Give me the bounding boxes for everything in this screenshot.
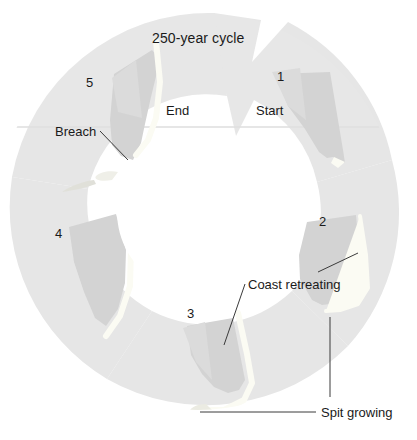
stage-number-2: 2 — [319, 214, 326, 229]
annotation-spit-growing: Spit growing — [321, 405, 393, 420]
stage-number-1: 1 — [277, 69, 284, 84]
cycle-diagram-figure: 250-year cycle 1 Start 2 3 4 5 End Breac… — [0, 0, 417, 440]
annotation-breach: Breach — [55, 124, 96, 139]
cycle-diagram-canvas — [0, 0, 417, 440]
stage-number-3: 3 — [187, 306, 194, 321]
ring-shading — [0, 0, 417, 128]
stage-number-4: 4 — [55, 226, 62, 241]
page-title: 250-year cycle — [152, 30, 244, 46]
stage-caption-start: Start — [256, 103, 283, 118]
stage-number-5: 5 — [86, 75, 93, 90]
annotation-coast-retreating: Coast retreating — [248, 277, 341, 292]
stage-caption-end: End — [166, 103, 189, 118]
spit-breach-fragment-5 — [95, 171, 118, 181]
spit-hook-3 — [190, 404, 214, 416]
